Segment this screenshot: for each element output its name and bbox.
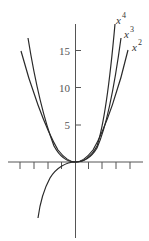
label-x-squared-exp: 2 [138, 38, 142, 47]
curve-x-squared [21, 50, 128, 162]
y-tick-label-10: 10 [59, 82, 71, 94]
label-x-squared: x 2 [131, 38, 142, 53]
y-tick-label-15: 15 [59, 45, 71, 57]
label-x-squared-base: x [131, 41, 137, 53]
label-x-fourth-exp: 4 [122, 11, 126, 20]
y-tick-label-5: 5 [65, 119, 71, 131]
y-axis-ticks [76, 51, 82, 126]
curve-x-cubed-negative [38, 162, 76, 218]
curve-x-fourth [28, 24, 115, 162]
label-x-cubed-base: x [123, 28, 129, 40]
label-x-cubed-exp: 3 [130, 25, 134, 34]
label-x-fourth-base: x [115, 14, 121, 26]
power-functions-chart: 5 10 15 x 4 x 3 x 2 [0, 0, 149, 241]
label-x-cubed: x 3 [123, 25, 134, 40]
label-x-fourth: x 4 [115, 11, 126, 26]
